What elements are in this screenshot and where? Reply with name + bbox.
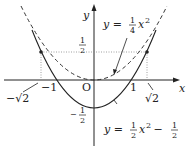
label-lower-num2: 1 bbox=[172, 121, 177, 130]
y-tick-neg-half-sign: − bbox=[70, 110, 77, 119]
y-tick-neg-half-num: 1 bbox=[80, 106, 85, 115]
label-lower-num1: 1 bbox=[131, 121, 136, 130]
label-lower-var: x bbox=[139, 123, 146, 136]
origin-label: O bbox=[82, 81, 91, 94]
label-lower-den1: 2 bbox=[131, 131, 136, 140]
intersection-right bbox=[145, 50, 149, 54]
y-tick-half-num: 1 bbox=[80, 36, 85, 45]
label-upper-prefix: y = bbox=[102, 18, 122, 31]
x-tick-one: 1 bbox=[130, 81, 137, 94]
y-axis-arrow-icon bbox=[92, 4, 97, 11]
y-tick-half-den: 2 bbox=[80, 46, 85, 55]
label-lower-minus: − bbox=[150, 123, 166, 136]
pointer-lower bbox=[114, 100, 117, 104]
x-axis-label: x bbox=[179, 82, 186, 95]
pointer-neg-sqrt2 bbox=[23, 83, 38, 92]
intersection-left bbox=[39, 50, 43, 54]
label-lower-den2: 2 bbox=[172, 131, 177, 140]
x-tick-neg-sqrt2: −√2 bbox=[6, 92, 29, 105]
x-tick-neg-one: −1 bbox=[41, 81, 57, 94]
label-upper-den: 4 bbox=[130, 26, 135, 35]
pointer-sqrt2 bbox=[148, 83, 153, 90]
y-axis-label: y bbox=[82, 9, 90, 22]
label-upper-var: x bbox=[138, 18, 145, 31]
y-tick-neg-half-den: 2 bbox=[80, 116, 85, 125]
label-upper-num: 1 bbox=[130, 16, 135, 25]
x-tick-sqrt2: √2 bbox=[145, 92, 159, 105]
parabola-diagram: y x O 1 2 − 1 2 −1 1 −√2 √2 y = 1 4 x 2 … bbox=[0, 0, 189, 146]
label-lower-prefix: y = bbox=[103, 123, 123, 136]
label-upper-exp: 2 bbox=[145, 16, 150, 25]
